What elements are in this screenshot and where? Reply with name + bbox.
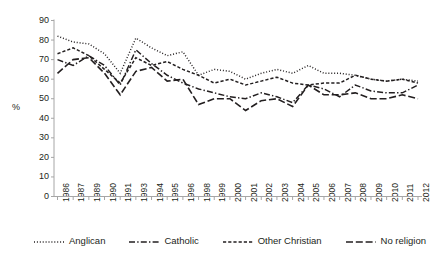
- legend-swatch-short-dash-icon: [223, 237, 253, 245]
- legend-item-catholic[interactable]: Catholic: [129, 236, 198, 246]
- legend-swatch-long-dash-icon: [346, 237, 376, 245]
- legend-label: Catholic: [164, 236, 198, 246]
- legend-label: No religion: [381, 236, 426, 246]
- legend-item-other-christian[interactable]: Other Christian: [223, 236, 322, 246]
- legend-label: Other Christian: [258, 236, 322, 246]
- plot-area: [0, 0, 432, 259]
- legend-label: Anglican: [69, 236, 105, 246]
- legend-item-anglican[interactable]: Anglican: [34, 236, 105, 246]
- series-lines: [58, 36, 419, 110]
- series-line-other-christian: [58, 48, 419, 85]
- axes: [51, 20, 422, 201]
- series-line-no-religion: [58, 58, 419, 111]
- legend-item-no-religion[interactable]: No religion: [346, 236, 426, 246]
- legend-swatch-dash-dot-icon: [129, 237, 159, 245]
- legend-swatch-dotted-icon: [34, 237, 64, 245]
- line-chart: % 9080706050403020100 198619871989199019…: [0, 0, 432, 259]
- chart-legend: AnglicanCatholicOther ChristianNo religi…: [34, 233, 426, 249]
- series-line-anglican: [58, 36, 419, 81]
